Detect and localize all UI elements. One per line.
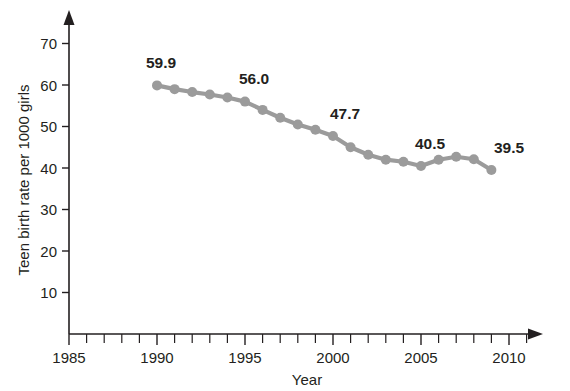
data-point-2008 (469, 154, 479, 164)
x-axis-minor-ticks (87, 334, 527, 343)
x-axis-title: Year (292, 371, 322, 388)
y-axis-tick-labels: 10 20 30 40 50 60 70 (40, 35, 57, 301)
chart-page: 10 20 30 40 50 60 70 (0, 0, 570, 391)
teen-birth-rate-line-chart: 10 20 30 40 50 60 70 (0, 0, 570, 391)
data-point-2006 (434, 155, 444, 165)
y-tick-label-30: 30 (40, 201, 57, 218)
y-axis-title: Teen birth rate per 1000 girls (15, 85, 32, 276)
data-point-1991 (170, 84, 180, 94)
y-tick-label-40: 40 (40, 160, 57, 177)
data-label-1995: 56.0 (239, 70, 269, 87)
data-label-2009: 39.5 (494, 139, 525, 156)
data-point-1996 (258, 105, 268, 115)
x-axis-major-ticks (69, 334, 509, 345)
x-tick-label-2000: 2000 (316, 349, 349, 366)
data-point-1999 (310, 125, 320, 135)
x-axis (69, 329, 543, 340)
data-point-2005 (416, 161, 426, 171)
data-point-2000 (328, 131, 338, 141)
x-tick-label-2010: 2010 (492, 349, 525, 366)
y-tick-label-10: 10 (40, 284, 57, 301)
data-point-2002 (363, 150, 373, 160)
y-axis-arrowhead (64, 10, 75, 25)
x-tick-label-1990: 1990 (140, 349, 173, 366)
data-point-1992 (187, 87, 197, 97)
data-point-labels: 59.9 56.0 47.7 40.5 39.5 (146, 54, 525, 156)
data-point-2009 (486, 165, 496, 175)
data-label-2000: 47.7 (330, 105, 360, 122)
x-tick-label-1985: 1985 (52, 349, 85, 366)
data-point-1998 (293, 119, 303, 129)
data-label-1990: 59.9 (146, 54, 177, 71)
x-axis-tick-labels: 1985 1990 1995 2000 2005 2010 (52, 349, 525, 366)
data-point-2004 (398, 157, 408, 167)
data-point-2001 (346, 142, 356, 152)
x-axis-arrowhead (528, 329, 543, 340)
data-point-1997 (275, 113, 285, 123)
y-axis (64, 10, 75, 334)
data-point-1994 (222, 92, 232, 102)
y-tick-label-20: 20 (40, 243, 57, 260)
y-tick-label-60: 60 (40, 77, 57, 94)
y-tick-label-50: 50 (40, 118, 57, 135)
data-point-1995 (240, 97, 250, 107)
x-tick-label-2005: 2005 (404, 349, 437, 366)
data-label-2005: 40.5 (415, 135, 446, 152)
y-tick-label-70: 70 (40, 35, 57, 52)
data-point-1990 (152, 80, 162, 90)
x-tick-label-1995: 1995 (228, 349, 261, 366)
y-axis-ticks (62, 44, 69, 293)
data-point-1993 (205, 90, 215, 100)
data-point-2007 (451, 152, 461, 162)
data-point-2003 (381, 155, 391, 165)
